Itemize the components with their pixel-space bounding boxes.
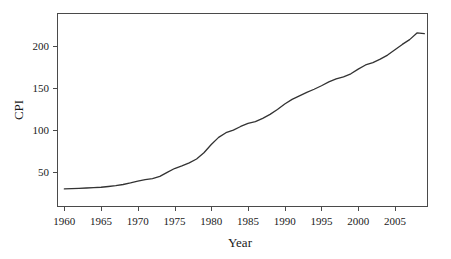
x-tick-label: 2005 <box>384 216 406 227</box>
x-tick-mark <box>64 207 65 211</box>
y-tick-mark <box>53 88 57 89</box>
x-tick-mark <box>321 207 322 211</box>
x-tick-label: 1970 <box>127 216 149 227</box>
x-tick-mark <box>211 207 212 211</box>
x-tick-mark <box>248 207 249 211</box>
x-tick-mark <box>358 207 359 211</box>
cpi-series-line <box>64 33 424 189</box>
y-tick-mark <box>53 46 57 47</box>
y-tick-label: 200 <box>17 40 49 51</box>
x-tick-label: 1980 <box>200 216 222 227</box>
x-tick-label: 1965 <box>90 216 112 227</box>
x-tick-mark <box>101 207 102 211</box>
y-tick-label: 100 <box>17 124 49 135</box>
x-tick-label: 1990 <box>274 216 296 227</box>
x-tick-mark <box>285 207 286 211</box>
x-tick-mark <box>175 207 176 211</box>
y-tick-mark <box>53 130 57 131</box>
x-tick-mark <box>395 207 396 211</box>
y-tick-mark <box>53 172 57 173</box>
x-tick-label: 1985 <box>237 216 259 227</box>
y-tick-label: 150 <box>17 82 49 93</box>
y-tick-label: 50 <box>17 166 49 177</box>
y-axis-title: CPI <box>12 100 25 120</box>
x-axis-title: Year <box>228 236 252 249</box>
x-tick-mark <box>138 207 139 211</box>
x-tick-label: 1975 <box>164 216 186 227</box>
series-plot-layer <box>57 13 428 207</box>
x-tick-label: 1995 <box>310 216 332 227</box>
x-tick-label: 2000 <box>347 216 369 227</box>
x-tick-label: 1960 <box>53 216 75 227</box>
cpi-line-chart-figure: 50100150200 1960196519701975198019851990… <box>0 0 451 259</box>
